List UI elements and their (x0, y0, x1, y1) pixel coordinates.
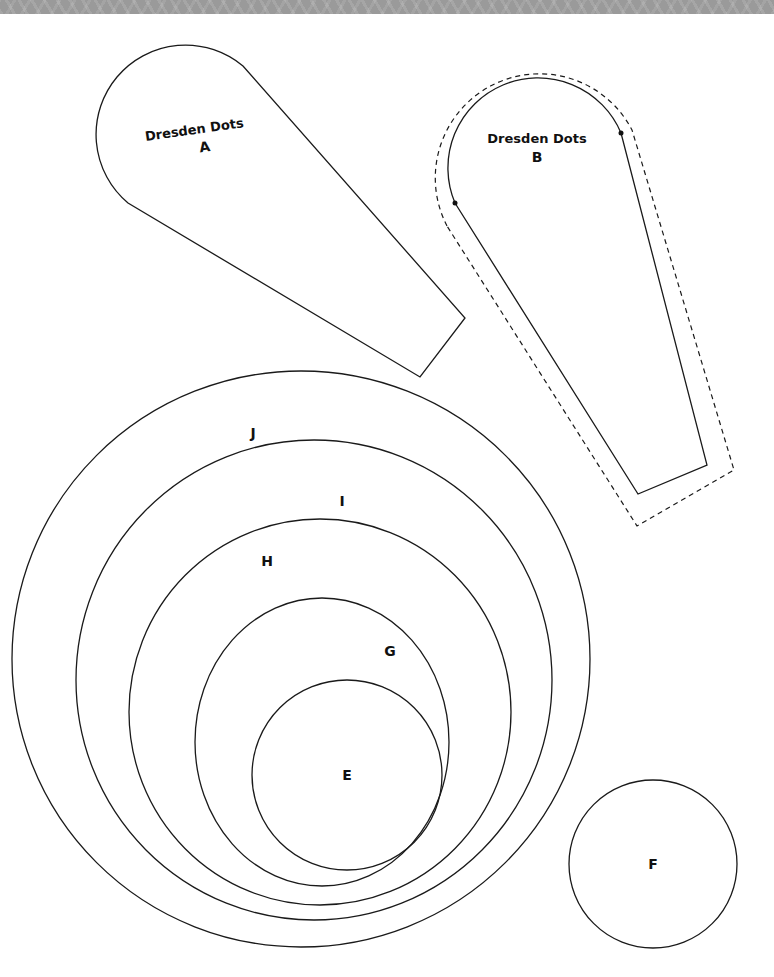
template-a-title: Dresden Dots (144, 115, 245, 144)
circle-label-g: G (384, 643, 396, 659)
template-b-marker-dot (619, 131, 624, 136)
circle-label-h: H (261, 553, 273, 569)
template-a-letter: A (198, 138, 211, 155)
template-a-outline (96, 45, 465, 377)
circle-label-f: F (648, 856, 658, 872)
template-b-letter: B (532, 149, 543, 165)
circle-g-outer (195, 598, 449, 886)
template-b-marker-dot (453, 201, 458, 206)
template-b-title: Dresden Dots (487, 131, 587, 146)
circle-label-e: E (342, 767, 352, 783)
circle-h-outer (129, 519, 511, 905)
circle-label-j: J (249, 425, 255, 441)
template-sheet: Dresden Dots A Dresden Dots B J I H G E … (0, 0, 774, 977)
circle-label-i: I (339, 493, 344, 509)
circle-i-outer (76, 440, 552, 920)
